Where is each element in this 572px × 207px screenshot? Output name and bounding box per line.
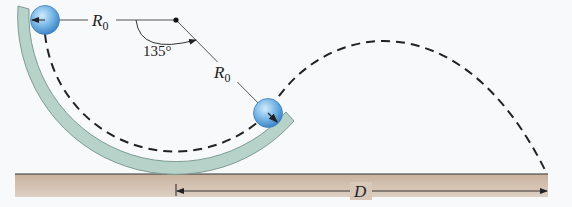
distance-label: D [353, 182, 367, 201]
angle-label: 135° [143, 43, 172, 59]
projectile-track-diagram: R0 135° R0 D [0, 0, 572, 207]
ground [15, 174, 548, 197]
angle-arc [136, 20, 196, 45]
ball-start [31, 6, 60, 35]
ball-launch [254, 99, 283, 128]
center-point [173, 17, 178, 22]
